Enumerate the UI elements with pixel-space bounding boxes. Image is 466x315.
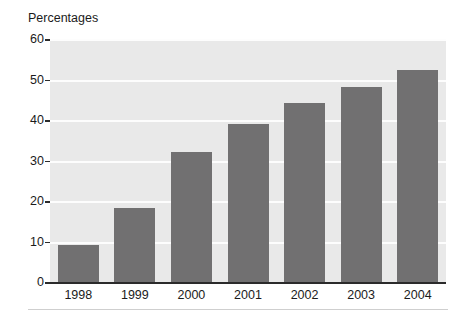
x-axis-tick-label: 2002 <box>276 288 333 302</box>
x-axis-line <box>50 282 446 284</box>
plot-area <box>50 40 446 283</box>
y-axis-tick-mark <box>45 39 50 41</box>
bar <box>171 152 212 283</box>
y-axis-tick-labels: 0102030405060 <box>0 0 44 315</box>
y-axis-tick-mark <box>45 242 50 244</box>
bar <box>284 103 325 283</box>
chart-figure: Percentages 0102030405060 19981999200020… <box>0 0 466 315</box>
y-axis-tick-label: 10 <box>2 236 44 249</box>
y-axis-tick-label: 60 <box>2 33 44 46</box>
bar <box>341 87 382 283</box>
bar <box>397 70 438 283</box>
y-axis-tick-mark <box>45 120 50 122</box>
x-axis-tick-label: 2001 <box>220 288 277 302</box>
bar <box>58 245 99 283</box>
y-axis-tick-label: 20 <box>2 195 44 208</box>
y-axis-tick-label: 0 <box>2 276 44 289</box>
y-axis-tick-label: 30 <box>2 155 44 168</box>
y-axis-tick-mark <box>45 80 50 82</box>
bar <box>228 124 269 283</box>
x-axis-tick-label: 2000 <box>163 288 220 302</box>
x-axis-tick-label: 1999 <box>107 288 164 302</box>
x-axis-tick-label: 2003 <box>333 288 390 302</box>
bar-series <box>50 40 446 283</box>
y-axis-tick-mark <box>45 201 50 203</box>
bar <box>114 208 155 283</box>
y-axis-tick-mark <box>45 161 50 163</box>
x-axis-tick-label: 2004 <box>389 288 446 302</box>
footer-rule <box>28 309 448 310</box>
y-axis-tick-label: 40 <box>2 114 44 127</box>
x-axis-tick-label: 1998 <box>50 288 107 302</box>
y-axis-tick-label: 50 <box>2 74 44 87</box>
